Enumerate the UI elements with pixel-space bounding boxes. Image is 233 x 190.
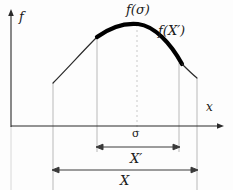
drop-lines — [11, 25, 197, 190]
x-axis-arrowhead — [217, 123, 224, 129]
diagram-canvas — [0, 0, 233, 190]
f-sigma-label: f(σ) — [126, 3, 150, 16]
function-plot-diagram: f x f(σ) f(X′) σ X′ X — [0, 0, 233, 190]
curve-thin-right — [182, 64, 197, 78]
curve-thin-left — [53, 37, 97, 83]
f-x-prime-label: f(X′) — [158, 24, 185, 37]
interval-x-prime-arrow — [96, 144, 180, 150]
y-axis-label: f — [19, 10, 24, 23]
interval-x-arrow — [52, 167, 198, 173]
y-axis-arrowhead — [8, 9, 14, 16]
x-axis-label: x — [206, 101, 213, 113]
interval-x-prime-label: X′ — [130, 152, 142, 165]
sigma-tick-label: σ — [132, 128, 140, 139]
interval-x-label: X — [120, 174, 129, 187]
